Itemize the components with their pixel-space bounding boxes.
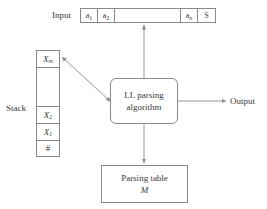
stack-cell-empty [37,68,59,107]
stack-label: Stack [6,104,26,113]
input-cell-empty [115,9,181,22]
stack-cell-x1-sub: 1 [49,131,52,137]
arrow-stack-to-algorithm [62,57,110,101]
ll-parser-diagram: Input a1 a2 an S Stack Xm X2 X1 [0,0,267,209]
stack-cell-xm-sub: m [49,58,53,64]
input-cell-terminator-base: S [204,12,208,20]
stack-cell-bottom-marker: # [37,141,59,156]
stack-cell-x2: X2 [37,107,59,124]
stack-cell-x1: X1 [37,124,59,141]
stack-cell-xm: Xm [37,51,59,68]
input-cell-an: an [181,9,198,22]
algorithm-line-1: LL parsing [124,89,163,101]
input-cell-a2: a2 [98,9,115,22]
parsing-table-line-2: M [141,184,149,196]
input-cell-terminator: S [198,9,215,22]
input-cell-an-sub: n [189,15,192,21]
input-cell-a1-sub: 1 [89,15,92,21]
stack-box: Xm X2 X1 # [36,50,60,157]
ll-parsing-algorithm-box: LL parsing algorithm [110,78,178,124]
input-cell-a1: a1 [81,9,98,22]
parsing-table-box: Parsing table M [101,165,188,203]
input-cell-a2-sub: 2 [106,15,109,21]
input-tape: a1 a2 an S [80,8,216,23]
stack-cell-bottom-marker-base: # [46,144,51,153]
output-label: Output [230,97,255,106]
algorithm-line-2: algorithm [127,101,162,113]
stack-cell-x2-sub: 2 [49,114,52,120]
parsing-table-line-1: Parsing table [121,172,168,184]
input-label: Input [52,11,71,20]
